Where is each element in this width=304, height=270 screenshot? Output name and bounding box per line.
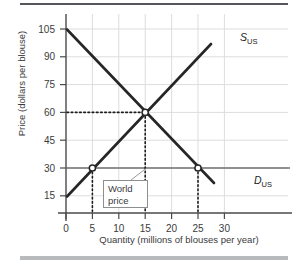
world-price-callout-line2: price <box>108 195 147 207</box>
x-tick-label-15: 15 <box>140 223 152 234</box>
x-axis-title: Quantity (millions of blouses per year) <box>60 234 298 245</box>
marker-domestic-quantity-supplied <box>89 165 95 171</box>
marker-no-trade-equilibrium <box>142 109 148 115</box>
world-price-callout: World price <box>103 180 148 208</box>
x-tick-label-5: 5 <box>90 223 96 234</box>
supply-curve-label-subscript: US <box>247 37 257 46</box>
supply-curve-label-letter: S <box>240 31 247 43</box>
x-tick-label-25: 25 <box>192 223 204 234</box>
demand-curve <box>67 30 214 184</box>
x-tick-label-30: 30 <box>219 223 231 234</box>
demand-curve-label-subscript: US <box>262 180 272 189</box>
y-tick-label-90: 90 <box>44 51 56 62</box>
x-tick-label-20: 20 <box>166 223 178 234</box>
y-tick-label-60: 60 <box>44 107 56 118</box>
supply-curve-label: SUS <box>240 31 257 46</box>
y-axis-title: Price (dollars per blouse) <box>16 19 27 149</box>
gridlines-horizontal <box>66 29 288 196</box>
x-tick-label-0: 0 <box>63 223 69 234</box>
y-tick-label-105: 105 <box>38 24 55 35</box>
y-tick-label-45: 45 <box>44 135 56 146</box>
callout-leader-line <box>131 169 146 181</box>
y-tick-label-30: 30 <box>44 163 56 174</box>
figure-container: 105 90 75 60 45 30 15 0 5 10 15 20 25 30 <box>0 0 304 270</box>
y-tick-label-15: 15 <box>44 190 56 201</box>
x-tick-label-10: 10 <box>113 223 125 234</box>
demand-curve-label: DUS <box>254 174 272 189</box>
y-axis-ticks <box>60 29 66 196</box>
x-axis-ticks <box>66 213 224 219</box>
y-tick-label-75: 75 <box>44 79 56 90</box>
marker-domestic-quantity-demanded <box>195 165 201 171</box>
world-price-callout-line1: World <box>108 183 147 195</box>
chart-svg: 105 90 75 60 45 30 15 0 5 10 15 20 25 30 <box>0 0 304 270</box>
